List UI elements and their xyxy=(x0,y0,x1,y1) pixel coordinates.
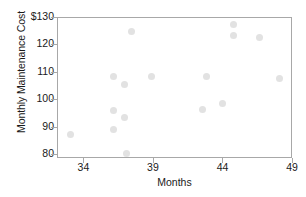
data-point xyxy=(128,28,135,35)
x-axis-title: Months xyxy=(57,176,292,188)
y-tick-label: 90 xyxy=(9,120,54,132)
data-point xyxy=(110,73,117,80)
y-tick-label: 100 xyxy=(9,92,54,104)
data-point xyxy=(230,32,237,39)
scatter-plot: Monthly Maintenance Cost $13012011010090… xyxy=(0,0,306,197)
data-point xyxy=(121,81,128,88)
x-tick-mark xyxy=(292,158,293,163)
y-tick-label: 80 xyxy=(9,147,54,159)
x-tick-mark xyxy=(83,158,84,163)
data-point xyxy=(67,131,74,138)
plot-area xyxy=(57,17,292,158)
y-tick-label: 120 xyxy=(9,37,54,49)
data-point xyxy=(219,100,226,107)
y-tick-label: 110 xyxy=(9,65,54,77)
data-point xyxy=(199,106,206,113)
data-point xyxy=(110,107,117,114)
data-point xyxy=(121,114,128,121)
x-tick-label: 49 xyxy=(272,161,306,173)
data-point xyxy=(276,75,283,82)
data-point xyxy=(230,21,237,28)
data-point xyxy=(110,126,117,133)
x-tick-mark xyxy=(222,158,223,163)
y-tick-label: $130 xyxy=(9,10,54,22)
x-tick-mark xyxy=(153,158,154,163)
data-point xyxy=(203,73,210,80)
data-point xyxy=(123,150,130,157)
data-point xyxy=(148,73,155,80)
data-point xyxy=(256,34,263,41)
